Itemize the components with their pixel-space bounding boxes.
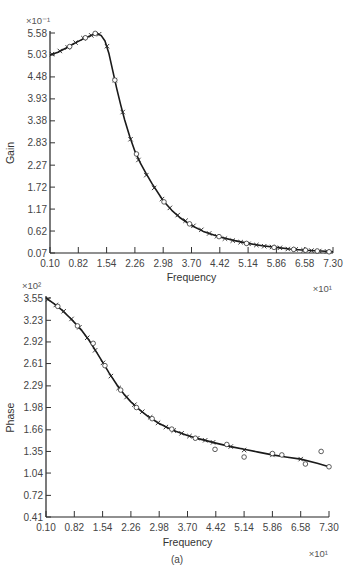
x-tick-label: 2.26 xyxy=(121,522,141,533)
y-multiplier: ×10⁻¹ xyxy=(26,15,50,26)
y-tick-label: 2.27 xyxy=(28,160,48,171)
x-tick-label: 0.10 xyxy=(40,258,60,269)
circle-marker xyxy=(217,234,222,239)
x-tick-label: 5.14 xyxy=(238,258,258,269)
circle-marker xyxy=(91,341,96,346)
fitted-curve xyxy=(46,298,329,467)
x-tick-label: 1.54 xyxy=(97,258,117,269)
y-tick-label: 1.66 xyxy=(24,424,44,435)
x-marker xyxy=(168,206,172,210)
circle-marker xyxy=(162,200,167,205)
x-tick-label: 0.82 xyxy=(65,522,85,533)
phase-plot: 0.410.721.041.351.661.982.292.612.923.23… xyxy=(4,280,339,559)
circle-marker xyxy=(291,247,296,252)
circle-marker xyxy=(150,416,155,421)
circle-marker xyxy=(67,44,72,49)
y-tick-label: 1.35 xyxy=(24,446,44,457)
x-marker xyxy=(85,336,89,340)
x-tick-label: 7.30 xyxy=(319,522,339,533)
circle-marker xyxy=(75,324,80,329)
circle-marker xyxy=(244,241,249,246)
y-tick-label: 2.83 xyxy=(28,137,48,148)
x-axis-label: Frequency xyxy=(167,271,217,283)
circle-marker xyxy=(134,405,139,410)
x-tick-label: 3.70 xyxy=(178,522,198,533)
circle-marker xyxy=(118,388,123,393)
y-tick-label: 0.72 xyxy=(24,490,44,501)
gain-phase-chart: 0.070.621.171.722.272.833.383.934.485.03… xyxy=(0,0,354,574)
circle-marker xyxy=(169,427,174,432)
y-tick-label: 5.03 xyxy=(28,49,48,60)
x-tick-label: 4.42 xyxy=(210,258,230,269)
y-axis-label: Gain xyxy=(4,142,16,164)
y-tick-label: 5.58 xyxy=(28,28,48,39)
x-tick-label: 0.10 xyxy=(36,522,56,533)
y-tick-label: 2.61 xyxy=(24,358,44,369)
figure-caption: (a) xyxy=(0,554,354,565)
circle-marker xyxy=(327,464,332,469)
x-tick-label: 7.30 xyxy=(323,258,343,269)
circle-marker xyxy=(272,245,277,250)
y-tick-label: 1.98 xyxy=(24,402,44,413)
circle-marker xyxy=(93,31,98,36)
circle-marker xyxy=(303,248,308,253)
x-tick-label: 1.54 xyxy=(93,522,113,533)
y-tick-label: 2.29 xyxy=(24,380,44,391)
x-tick-label: 6.58 xyxy=(295,258,315,269)
x-tick-label: 3.70 xyxy=(182,258,202,269)
x-axis-label: Frequency xyxy=(163,536,213,548)
circle-marker xyxy=(315,249,320,254)
y-tick-label: 3.55 xyxy=(24,293,44,304)
fitted-curve xyxy=(50,34,333,252)
circle-marker xyxy=(270,451,275,456)
circle-marker xyxy=(213,447,218,452)
circle-marker xyxy=(303,462,308,467)
y-tick-label: 0.62 xyxy=(28,226,48,237)
circle-marker xyxy=(225,442,230,447)
y-axis-label: Phase xyxy=(4,402,16,432)
circle-marker xyxy=(55,304,60,309)
y-tick-label: 1.04 xyxy=(24,468,44,479)
circle-marker xyxy=(134,152,139,157)
gain-plot: 0.070.621.171.722.272.833.383.934.485.03… xyxy=(4,15,343,294)
circle-marker xyxy=(242,455,247,460)
circle-marker xyxy=(113,78,118,83)
x-tick-label: 4.42 xyxy=(206,522,226,533)
y-tick-label: 2.92 xyxy=(24,336,44,347)
y-tick-label: 1.72 xyxy=(28,182,48,193)
circle-marker xyxy=(280,453,285,458)
x-marker xyxy=(124,395,128,399)
circle-marker xyxy=(83,35,88,40)
x-tick-label: 5.14 xyxy=(234,522,254,533)
y-tick-label: 3.23 xyxy=(24,315,44,326)
y-tick-label: 3.93 xyxy=(28,93,48,104)
circle-marker xyxy=(319,449,324,454)
y-tick-label: 0.41 xyxy=(24,512,44,523)
y-tick-label: 0.07 xyxy=(28,248,48,259)
x-tick-label: 2.98 xyxy=(153,258,173,269)
y-tick-label: 1.17 xyxy=(28,204,48,215)
x-tick-label: 5.86 xyxy=(267,258,287,269)
x-tick-label: 6.58 xyxy=(291,522,311,533)
x-tick-label: 0.82 xyxy=(69,258,89,269)
circle-marker xyxy=(193,436,198,441)
circle-marker xyxy=(103,363,108,368)
x-tick-label: 5.86 xyxy=(263,522,283,533)
x-tick-label: 2.26 xyxy=(125,258,145,269)
circle-marker xyxy=(327,250,332,255)
x-tick-label: 2.98 xyxy=(149,522,169,533)
y-tick-label: 4.48 xyxy=(28,71,48,82)
x-multiplier: ×10¹ xyxy=(313,283,332,294)
circle-marker xyxy=(187,222,192,227)
y-tick-label: 3.38 xyxy=(28,115,48,126)
y-multiplier: ×10² xyxy=(22,280,41,291)
